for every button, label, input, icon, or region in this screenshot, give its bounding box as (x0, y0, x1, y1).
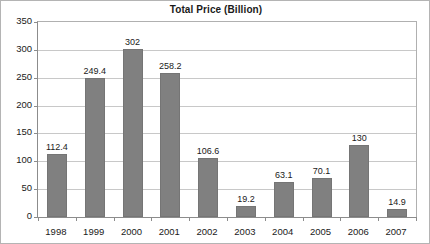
bar-value-label: 112.4 (32, 143, 82, 152)
y-axis-label: 0 (1, 211, 32, 221)
y-axis-tick (34, 106, 38, 107)
x-axis-tick (265, 217, 266, 221)
gridline (38, 50, 416, 51)
x-axis-tick (303, 217, 304, 221)
bar (274, 182, 294, 217)
x-axis-tick (189, 217, 190, 221)
y-axis-label: 350 (1, 16, 32, 26)
x-axis-tick (378, 217, 379, 221)
bar (198, 158, 218, 217)
bar-value-label: 14.9 (372, 198, 422, 207)
bar-value-label: 106.6 (183, 147, 233, 156)
x-axis-tick (114, 217, 115, 221)
y-axis-label: 50 (1, 183, 32, 193)
y-axis-tick (34, 22, 38, 23)
y-axis-label: 300 (1, 44, 32, 54)
y-axis-tick (34, 78, 38, 79)
x-axis-tick (38, 217, 39, 221)
bar (47, 154, 67, 217)
y-axis-label: 250 (1, 72, 32, 82)
bar-value-label: 258.2 (145, 62, 195, 71)
y-axis-tick (34, 50, 38, 51)
bar-value-label: 130 (334, 134, 384, 143)
bar-value-label: 19.2 (221, 195, 271, 204)
bar-value-label: 70.1 (297, 167, 347, 176)
bar (349, 145, 369, 217)
bar (85, 78, 105, 217)
x-axis-tick (151, 217, 152, 221)
bar (123, 49, 143, 217)
bar (387, 209, 407, 217)
bar-value-label: 249.4 (70, 67, 120, 76)
x-axis-tick (227, 217, 228, 221)
plot-area: 112.4249.4302258.2106.619.263.170.113014… (37, 21, 417, 218)
bar (312, 178, 332, 217)
chart-title: Total Price (Billion) (1, 4, 430, 15)
y-axis-tick (34, 161, 38, 162)
y-axis-label: 150 (1, 127, 32, 137)
bar (236, 206, 256, 217)
y-axis-label: 100 (1, 155, 32, 165)
x-axis-tick (416, 217, 417, 221)
y-axis-label: 200 (1, 100, 32, 110)
x-axis-tick (76, 217, 77, 221)
y-axis-tick (34, 189, 38, 190)
bar (160, 73, 180, 217)
bar-value-label: 302 (108, 38, 158, 47)
x-axis-tick (340, 217, 341, 221)
bar-chart: Total Price (Billion) 112.4249.4302258.2… (0, 0, 430, 244)
x-axis-label: 2007 (371, 227, 421, 237)
y-axis-tick (34, 133, 38, 134)
